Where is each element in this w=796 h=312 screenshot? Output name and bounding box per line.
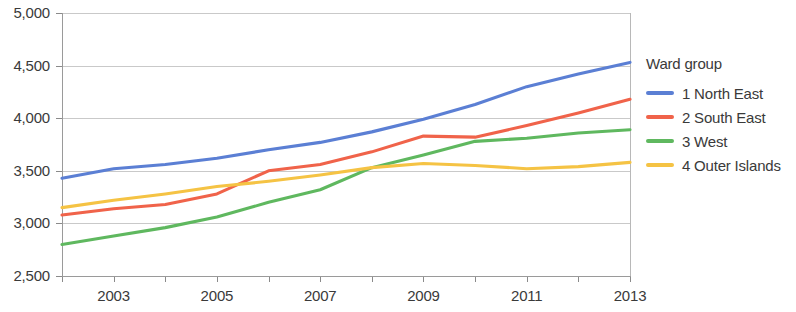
series-line [62,130,630,245]
legend-item-label: 2 South East [682,109,766,126]
y-tick-label: 4,000 [0,110,50,125]
series-line [62,62,630,178]
legend-item-label: 1 North East [682,85,763,102]
y-axis-line [62,13,63,276]
legend-item[interactable]: 2 South East [646,105,796,129]
gridline-y [62,171,630,172]
y-tick-label: 4,500 [0,58,50,73]
line-chart: 2,5003,0003,5004,0004,5005,000 200320052… [0,0,796,312]
gridline-y [62,223,630,224]
legend-item[interactable]: 1 North East [646,81,796,105]
legend-swatch-icon [646,163,674,167]
legend-item-label: 3 West [682,133,727,150]
legend-swatch-icon [646,91,674,95]
legend-title: Ward group [646,55,796,72]
y-tick-label: 2,500 [0,268,50,283]
legend-item-label: 4 Outer Islands [682,157,781,174]
x-tick-label: 2011 [497,288,557,304]
legend-swatch-icon [646,139,674,143]
y-tick-label: 3,000 [0,215,50,230]
gridline-y [62,66,630,67]
legend-item[interactable]: 4 Outer Islands [646,153,796,177]
legend-items: 1 North East2 South East3 West4 Outer Is… [646,81,796,177]
gridline-y [62,13,630,14]
plot-right-border [630,13,631,276]
chart-legend: Ward group 1 North East2 South East3 Wes… [646,55,796,177]
legend-item[interactable]: 3 West [646,129,796,153]
x-tick-label: 2003 [84,288,144,304]
x-tick-label: 2007 [290,288,350,304]
series-line [62,162,630,207]
legend-swatch-icon [646,115,674,119]
x-tick-label: 2013 [600,288,660,304]
x-tick-label: 2005 [187,288,247,304]
x-axis-line [62,276,631,277]
gridline-y [62,118,630,119]
series-line [62,99,630,215]
y-tick-label: 5,000 [0,5,50,20]
x-tick-label: 2009 [393,288,453,304]
y-tick-label: 3,500 [0,163,50,178]
